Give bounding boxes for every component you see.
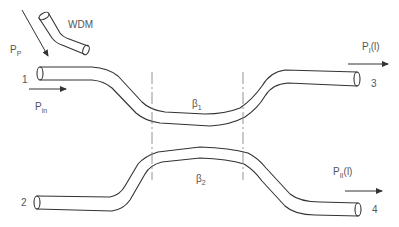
port-4-label: 4 bbox=[372, 204, 378, 215]
output-power-2-label: PII(l) bbox=[333, 166, 352, 179]
coupler-diagram: WDM PP 1 Pin PI(l) 3 β1 β2 2 PII(l) 4 bbox=[0, 0, 399, 227]
output-power-1-label: PI(l) bbox=[362, 41, 380, 54]
port-3-label: 3 bbox=[371, 78, 377, 89]
beta2-label: β2 bbox=[196, 173, 206, 186]
pump-power-label: PP bbox=[10, 44, 22, 57]
port-2-label: 2 bbox=[21, 197, 27, 208]
port-1-label: 1 bbox=[22, 74, 28, 85]
pump-arrow bbox=[22, 10, 48, 56]
beta1-label: β1 bbox=[192, 98, 202, 111]
wdm-fiber bbox=[38, 11, 91, 56]
wdm-label: WDM bbox=[68, 19, 93, 30]
input-power-label: Pin bbox=[35, 101, 47, 114]
upper-fiber bbox=[37, 67, 360, 126]
